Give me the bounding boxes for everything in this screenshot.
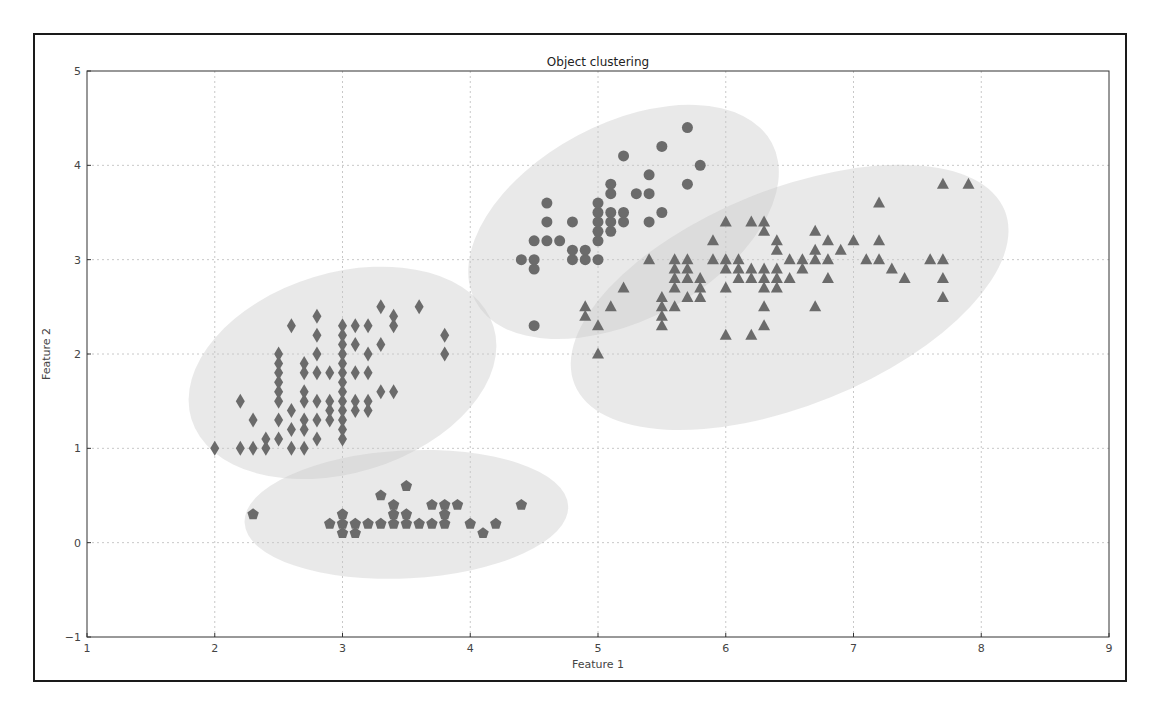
y-axis-label: Feature 2 [40, 328, 53, 380]
circle-marker [605, 216, 616, 227]
x-tick-label: 8 [978, 642, 985, 655]
circle-marker [567, 254, 578, 265]
circle-marker [618, 150, 629, 161]
circle-marker [605, 207, 616, 218]
circle-marker [605, 179, 616, 190]
x-tick-label: 6 [722, 642, 729, 655]
circle-marker [605, 226, 616, 237]
circle-marker [656, 207, 667, 218]
circle-marker [529, 320, 540, 331]
circle-marker [554, 235, 565, 246]
circle-marker [618, 216, 629, 227]
circle-marker [656, 141, 667, 152]
circle-marker [631, 188, 642, 199]
circle-marker [516, 254, 527, 265]
circle-marker [541, 216, 552, 227]
y-tick-label: 0 [74, 537, 81, 550]
x-tick-label: 2 [211, 642, 218, 655]
circle-marker [529, 235, 540, 246]
x-tick-label: 7 [850, 642, 857, 655]
x-tick-label: 4 [467, 642, 474, 655]
circle-marker [567, 216, 578, 227]
circle-marker [541, 235, 552, 246]
circle-marker [593, 207, 604, 218]
circle-marker [529, 264, 540, 275]
x-tick-label: 9 [1106, 642, 1113, 655]
circle-marker [644, 188, 655, 199]
circle-marker [593, 235, 604, 246]
y-tick-label: −1 [65, 631, 81, 644]
x-tick-label: 5 [595, 642, 602, 655]
circle-marker [593, 198, 604, 209]
circle-marker [580, 245, 591, 256]
circle-marker [605, 188, 616, 199]
circle-marker [682, 179, 693, 190]
circle-marker [682, 122, 693, 133]
x-tick-label: 3 [339, 642, 346, 655]
circle-marker [618, 207, 629, 218]
circle-marker [529, 254, 540, 265]
scatter-chart: 123456789−1012345 Object clustering Feat… [0, 0, 1160, 712]
circle-marker [593, 254, 604, 265]
circle-marker [580, 254, 591, 265]
chart-title: Object clustering [547, 55, 649, 69]
x-tick-label: 1 [84, 642, 91, 655]
y-tick-label: 1 [74, 442, 81, 455]
y-tick-label: 3 [74, 254, 81, 267]
y-tick-label: 5 [74, 65, 81, 78]
circle-marker [644, 216, 655, 227]
y-tick-label: 2 [74, 348, 81, 361]
circle-marker [567, 245, 578, 256]
x-axis-label: Feature 1 [572, 658, 624, 671]
y-tick-label: 4 [74, 159, 81, 172]
circle-marker [593, 216, 604, 227]
circle-marker [541, 198, 552, 209]
circle-marker [644, 169, 655, 180]
cluster-ellipses [162, 57, 1045, 587]
circle-marker [695, 160, 706, 171]
circle-marker [593, 226, 604, 237]
